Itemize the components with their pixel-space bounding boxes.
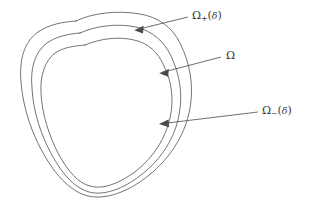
label-omega-base: Ω [226, 49, 235, 62]
label-omega-plus: Ω+(δ) [192, 10, 222, 22]
arrow-omega-minus [159, 112, 258, 127]
arrowhead-omega [159, 69, 169, 77]
label-omega-plus-close-paren: ) [217, 9, 221, 22]
arrow-omega-plus [134, 17, 188, 34]
label-omega-minus-close-paren: ) [287, 104, 291, 117]
label-omega-minus: Ω−(δ) [262, 105, 292, 117]
outer-curve [21, 12, 192, 197]
figure-canvas: Ω+(δ) Ω Ω−(δ) [0, 0, 311, 215]
label-omega: Ω [226, 50, 235, 61]
label-omega-plus-base: Ω [192, 9, 201, 22]
arrowhead-omega-minus [159, 119, 169, 127]
label-omega-minus-base: Ω [262, 104, 271, 117]
middle-curve [32, 25, 181, 193]
